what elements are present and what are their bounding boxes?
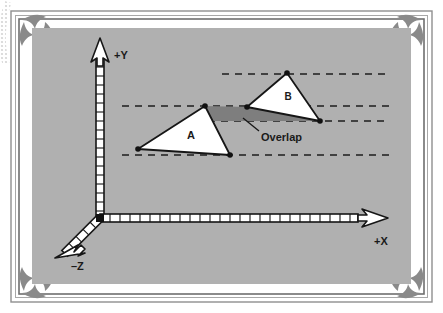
- vertex-marker: [244, 104, 250, 110]
- z-axis-label: –Z: [71, 260, 84, 272]
- triangle-b-label: B: [284, 91, 291, 102]
- vertex-marker: [227, 152, 233, 158]
- vertex-marker: [135, 146, 141, 152]
- triangle-a-label: A: [187, 129, 195, 141]
- vertex-marker: [202, 103, 208, 109]
- plot-background: [32, 28, 411, 284]
- y-axis-label: +Y: [114, 49, 128, 61]
- origin-marker: [96, 214, 104, 222]
- vertex-marker: [284, 70, 290, 76]
- x-axis-bar: [100, 214, 358, 222]
- figure-page: A B +Y: [0, 0, 443, 313]
- figure-canvas: A B +Y: [0, 0, 443, 313]
- x-axis-label: +X: [374, 235, 388, 247]
- vertex-marker: [317, 118, 323, 124]
- overlap-label: Overlap: [261, 131, 302, 143]
